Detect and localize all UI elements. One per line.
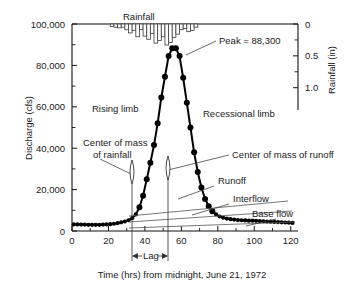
hydrograph-point [112,222,116,226]
hydrograph-point [155,120,161,126]
hydrograph-point [191,149,197,155]
rainfall-bar [165,24,169,45]
hydrograph-point [180,75,186,81]
com-runoff-marker [166,156,170,180]
y2-tick-label: 0.5 [305,50,318,61]
rainfall-bar [194,24,198,27]
rainfall-bar [129,24,133,33]
hydrograph-point [144,176,150,182]
hydrograph-point [134,212,138,216]
hydrograph-point [151,142,157,148]
hydrograph-point [225,216,229,220]
rising-limb-label: Rising limb [92,103,138,114]
recessional-limb-label: Recessional limb [203,108,275,119]
runoff-label: Runoff [218,175,246,186]
hydrograph-point [86,223,90,227]
lag-label: Lag [143,250,159,261]
hydrograph-point [276,220,280,224]
y-tick-label: 40,000 [36,143,65,154]
hydrograph-point [119,220,123,224]
hydrograph-point [97,223,101,227]
hydrograph-point [243,218,247,222]
y-tick-label: 60,000 [36,101,65,112]
hydrograph-point [218,214,222,218]
x-tick-label: 40 [140,235,151,246]
hydrograph-point [83,222,87,226]
y2-tick-label: 1.0 [305,82,318,93]
rainfall-title: Rainfall [123,11,155,22]
interflow-label: Interflow [233,193,269,204]
chart-canvas: 020406080100120020,00040,00060,00080,000… [0,0,350,286]
rainfall-bar [136,24,140,37]
x-axis-title: Time (hrs) from midnight, June 21, 1972 [98,269,267,280]
hydrograph-point [250,219,254,223]
rainfall-bar [143,24,147,36]
hydrograph-point [94,223,98,227]
hydrograph-point [108,222,112,226]
hydrograph-point [228,217,232,221]
hydrograph-point [79,222,83,226]
x-tick-label: 80 [213,235,224,246]
hydrograph-point [123,219,127,223]
x-tick-label: 0 [69,235,74,246]
hydrograph-point [136,204,142,210]
hydrograph-point [247,219,251,223]
rainfall-bar [180,24,184,30]
hydrograph-point [72,222,76,226]
y-axis-title: Discharge (cfs) [23,96,34,160]
hydrograph-point [140,193,146,199]
hydrograph-point [195,169,201,175]
hydrograph-point [232,218,236,222]
peak-label: Peak = 88,300 [219,35,281,46]
rainfall-bar [187,24,191,32]
hydrograph-point [105,222,109,226]
rainfall-bar [172,24,176,37]
rainfall-bar [158,24,162,41]
com-rainfall-marker [130,160,134,184]
hydrograph-point [101,222,105,226]
y2-tick-label: 0 [305,19,310,30]
rainfall-bar [110,24,114,27]
hydrograph-point [162,74,168,80]
rainfall-bar [161,24,165,37]
rainfall-bar [176,24,180,34]
com-rainfall-label-line2: of rainfall [93,149,132,160]
y-tick-label: 80,000 [36,60,65,71]
hydrograph-point [272,220,276,224]
hydrograph-point [202,196,208,202]
rainfall-bar [139,24,143,30]
y-tick-label: 100,000 [31,19,65,30]
hydrograph-point [158,94,164,100]
rainfall-bar [114,24,118,27]
x-tick-label: 60 [176,235,187,246]
y2-axis-title: Rainfall (in) [326,46,337,94]
hydrograph-point [221,216,225,220]
com-runoff-label: Center of mass of runoff [232,149,334,160]
rainfall-bar [132,24,136,30]
com-rainfall-label-line1: Center of mass [83,137,148,148]
rainfall-bar [125,24,129,30]
hydrograph-point [177,53,183,59]
hydrograph-point [75,222,79,226]
hydrograph-point [187,125,193,131]
x-tick-label: 20 [103,235,114,246]
x-tick-label: 100 [246,235,262,246]
rainfall-bar [154,24,158,43]
hydrograph-point [254,219,258,223]
rainfall-bar [150,24,154,34]
rainfall-bar [190,24,194,30]
rainfall-bar [169,24,173,42]
hydrograph-point [236,218,240,222]
hydrograph-figure: 020406080100120020,00040,00060,00080,000… [0,0,350,286]
x-tick-label: 120 [283,235,299,246]
hydrograph-point [290,221,294,225]
rainfall-bar [147,24,151,39]
hydrograph-point [239,218,243,222]
hydrograph-point [173,45,179,51]
hydrograph-point [90,223,94,227]
rainfall-bar [118,24,122,28]
rainfall-bar [121,24,125,27]
y-tick-label: 0 [60,226,65,237]
rainfall-bar [183,24,187,28]
y-tick-label: 20,000 [36,184,65,195]
